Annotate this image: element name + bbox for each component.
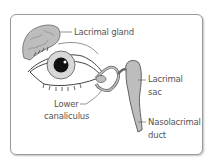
- label-lacrimal-sac-line1: Lacrimal: [148, 74, 183, 84]
- lacrimal-sac-and-duct: [126, 60, 142, 132]
- leader-lower-canaliculus: [80, 90, 102, 104]
- label-lower-canaliculus-line1: Lower: [54, 99, 78, 109]
- lacrimal-caruncle: [96, 76, 106, 83]
- label-lower-canaliculus-line2: canaliculus: [44, 111, 89, 121]
- pupil: [54, 58, 69, 73]
- label-nasolacrimal-duct-line2: duct: [148, 130, 166, 140]
- label-lacrimal-gland: Lacrimal gland: [74, 27, 134, 37]
- label-nasolacrimal-duct-line1: Nasolacrimal: [148, 117, 201, 127]
- label-lacrimal-sac-line2: sac: [148, 87, 162, 97]
